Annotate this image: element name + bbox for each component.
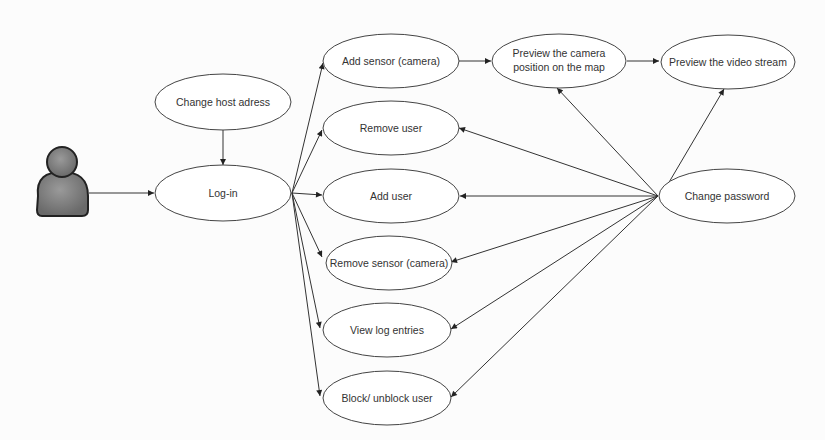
usecase-label: Block/ unblock user xyxy=(341,392,433,404)
usecase-label: Preview the video stream xyxy=(669,56,787,68)
edge-login-addsensor xyxy=(292,63,323,193)
usecase-label: View log entries xyxy=(350,324,424,336)
usecase-label: Remove user xyxy=(360,122,423,134)
usecase-block-unblock-user[interactable]: Block/ unblock user xyxy=(323,371,451,425)
edge-changepw-viewlog xyxy=(451,196,658,329)
edge-changepw-previewmap xyxy=(557,88,658,196)
use-case-diagram: Change host adress Log-in Add sensor (ca… xyxy=(0,0,825,440)
usecase-remove-user[interactable]: Remove user xyxy=(323,101,459,155)
actor-icon xyxy=(37,147,88,216)
usecase-add-user[interactable]: Add user xyxy=(323,169,459,223)
usecase-add-sensor[interactable]: Add sensor (camera) xyxy=(323,34,459,88)
usecase-label: Remove sensor (camera) xyxy=(330,257,448,269)
edge-changepw-removeuser xyxy=(459,128,658,196)
usecase-label: Log-in xyxy=(208,187,237,199)
usecase-preview-video-stream[interactable]: Preview the video stream xyxy=(661,35,795,89)
usecase-log-in[interactable]: Log-in xyxy=(155,165,291,221)
usecase-label-line1: Preview the camera xyxy=(513,47,606,59)
usecase-view-log-entries[interactable]: View log entries xyxy=(323,303,451,357)
usecase-label: Add user xyxy=(370,190,413,202)
usecase-remove-sensor[interactable]: Remove sensor (camera) xyxy=(326,236,452,290)
edge-login-removeuser xyxy=(292,130,322,193)
usecase-change-host-address[interactable]: Change host adress xyxy=(155,74,291,130)
edge-changepw-removesensor xyxy=(451,196,658,262)
edge-login-adduser xyxy=(292,193,322,195)
usecase-label: Change host adress xyxy=(176,96,270,108)
usecase-label-line2: position on the map xyxy=(513,61,605,73)
edge-changepw-block xyxy=(451,196,658,397)
edge-login-viewlog xyxy=(292,193,320,328)
usecase-change-password[interactable]: Change password xyxy=(659,169,795,223)
usecase-preview-camera-position[interactable]: Preview the camera position on the map xyxy=(492,34,626,88)
usecase-label: Change password xyxy=(685,190,770,202)
usecase-label: Add sensor (camera) xyxy=(342,55,440,67)
